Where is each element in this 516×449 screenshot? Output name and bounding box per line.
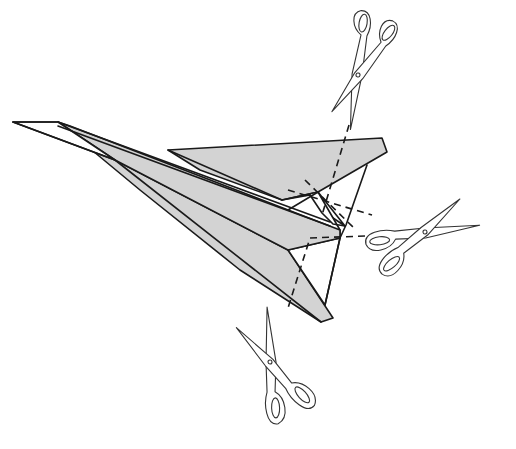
diagram-canvas <box>0 0 516 449</box>
paper-airplane <box>13 122 387 322</box>
scissors-bottom <box>231 305 321 425</box>
scissors-top <box>317 6 404 135</box>
scissors-right <box>362 192 485 281</box>
